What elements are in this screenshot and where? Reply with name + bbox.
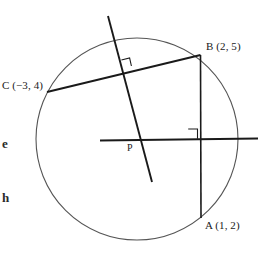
chord-ab-line [201,55,202,218]
label-point-c: C (−3, 4) [2,79,43,91]
margin-text-line-two: h [2,190,9,206]
diagram-canvas: B (2, 5) C (−3, 4) A (1, 2) P e h [0,0,278,259]
perpendicular-bisector-of-ab-line [100,139,258,141]
perpendicular-bisector-of-cb-line [108,16,152,182]
right-angle-cb-icon [121,58,131,66]
right-angle-ab-icon [188,129,197,139]
label-point-a: A (1, 2) [205,219,240,231]
label-center-p: P [127,142,133,153]
label-point-b: B (2, 5) [206,40,241,52]
margin-text-line-one: e [2,136,8,152]
